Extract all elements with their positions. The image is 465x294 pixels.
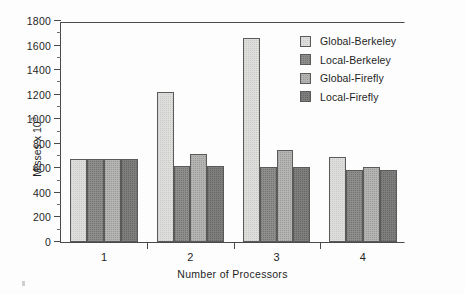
- y-axis-tick-label: 1800: [27, 15, 51, 27]
- legend-swatch: [300, 91, 311, 102]
- y-axis-tick-minor: [57, 32, 61, 33]
- legend-swatch: [300, 36, 311, 47]
- bar-group: [157, 23, 224, 242]
- chart-legend: Global-BerkeleyLocal-BerkeleyGlobal-Fire…: [300, 32, 396, 106]
- bar: [380, 170, 397, 242]
- x-axis-tick: [234, 242, 235, 249]
- y-axis-tick-label: 200: [33, 211, 51, 223]
- legend-label: Local-Berkeley: [320, 54, 391, 66]
- legend-swatch: [300, 73, 311, 84]
- legend-item: Global-Firefly: [300, 69, 396, 88]
- y-axis-tick-major: [54, 94, 61, 95]
- bar: [329, 157, 346, 242]
- y-axis-tick-minor: [57, 57, 61, 58]
- bar: [157, 92, 174, 242]
- bar-chart-figure: Misses x 103 020040060080010001200140016…: [0, 0, 465, 294]
- y-axis-tick-minor: [57, 131, 61, 132]
- x-axis-title: Number of Processors: [60, 268, 405, 280]
- y-axis-tick-major: [54, 192, 61, 193]
- x-axis-tick: [320, 242, 321, 249]
- bar: [190, 154, 207, 242]
- y-axis-tick-major: [54, 118, 61, 119]
- y-axis-tick-label: 1600: [27, 40, 51, 52]
- bar: [70, 159, 87, 242]
- legend-label: Global-Firefly: [320, 72, 384, 84]
- y-axis-tick-label: 0: [45, 236, 51, 248]
- legend-item: Local-Berkeley: [300, 51, 396, 70]
- y-axis-tick-minor: [57, 106, 61, 107]
- x-axis-tick-label: 2: [187, 251, 193, 263]
- y-axis-tick-major: [54, 45, 61, 46]
- bar: [277, 150, 294, 242]
- bar: [260, 167, 277, 242]
- y-axis-tick-minor: [57, 81, 61, 82]
- bar: [346, 170, 363, 242]
- legend-label: Local-Firefly: [320, 91, 378, 103]
- y-axis-tick-label: 1200: [27, 89, 51, 101]
- bar: [87, 159, 104, 242]
- y-axis-tick-label: 600: [33, 162, 51, 174]
- y-axis-tick-label: 400: [33, 187, 51, 199]
- bar: [174, 166, 191, 242]
- bar: [104, 159, 121, 242]
- bar-group: [70, 23, 137, 242]
- y-axis-tick-minor: [57, 155, 61, 156]
- bar: [207, 166, 224, 242]
- y-axis-tick-major: [54, 216, 61, 217]
- y-axis-tick-major: [54, 167, 61, 168]
- y-axis-tick-minor: [57, 204, 61, 205]
- y-axis-tick-major: [54, 241, 61, 242]
- legend-label: Global-Berkeley: [320, 35, 396, 47]
- bar: [363, 167, 380, 243]
- y-axis-tick-label: 800: [33, 138, 51, 150]
- legend-swatch: [300, 54, 311, 65]
- y-axis-tick-major: [54, 69, 61, 70]
- x-axis-tick-label: 3: [274, 251, 280, 263]
- y-axis-tick-label: 1000: [27, 113, 51, 125]
- y-axis-tick-minor: [57, 229, 61, 230]
- legend-item: Local-Firefly: [300, 88, 396, 107]
- y-axis-tick-major: [54, 143, 61, 144]
- y-axis-tick-minor: [57, 180, 61, 181]
- bar: [121, 159, 138, 242]
- legend-item: Global-Berkeley: [300, 32, 396, 51]
- x-axis-tick-label: 1: [101, 251, 107, 263]
- bar: [293, 167, 310, 243]
- scan-artifact: [22, 281, 25, 286]
- x-axis-tick: [147, 242, 148, 249]
- bar: [243, 38, 260, 242]
- y-axis-tick-label: 1400: [27, 64, 51, 76]
- y-axis-tick-major: [54, 20, 61, 21]
- x-axis-tick-label: 4: [360, 251, 366, 263]
